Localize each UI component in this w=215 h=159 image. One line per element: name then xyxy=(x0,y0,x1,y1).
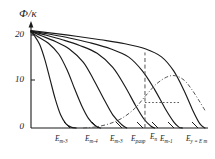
data-curves xyxy=(31,31,205,128)
x-tick-label-0: Em-3 xyxy=(55,135,68,143)
y-tick-label-0: 0 xyxy=(8,122,24,131)
x-tick-label-4: En xyxy=(150,133,157,141)
curve-5 xyxy=(31,31,182,128)
annotation-overlays xyxy=(83,52,205,128)
x-tick-base-6: E xyxy=(186,134,191,143)
x-tick-base-2: E xyxy=(110,134,115,143)
x-tick-label-3: Eразр xyxy=(131,135,145,143)
y-tick-label-20: 20 xyxy=(8,30,24,39)
x-tick-sub-4: n xyxy=(155,136,158,142)
curve-3 xyxy=(31,31,127,128)
curve-6 xyxy=(31,31,205,128)
figure-container: Ф/к 20 10 0 Em-3 Em-4 Em-3 Eразр En Em-1… xyxy=(0,0,215,159)
x-tick-label-1: Em-4 xyxy=(85,135,98,143)
x-tick-base-5: E xyxy=(160,134,165,143)
x-tick-base-3: E xyxy=(131,134,136,143)
y-axis-arrow xyxy=(29,21,34,28)
x-tick-label-2: Em-3 xyxy=(110,135,123,143)
x-tick-label-5: Em-1 xyxy=(160,135,173,143)
x-tick-base-1: E xyxy=(85,134,90,143)
x-tick-sub-3: разр xyxy=(136,138,146,144)
y-axis-title: Ф/к xyxy=(19,8,37,19)
x-tick-base-0: E xyxy=(55,134,60,143)
x-tick-marks xyxy=(64,122,198,128)
x-tick-sub-0: m-3 xyxy=(60,138,68,144)
x-tick-label-6: Eу = E m xyxy=(186,135,207,143)
x-tick-base-4: E xyxy=(150,132,155,141)
plot-canvas xyxy=(0,0,215,159)
curve-1 xyxy=(31,32,76,128)
x-tick-sub-5: m-1 xyxy=(165,138,173,144)
y-tick-label-10: 10 xyxy=(8,75,24,84)
x-tick-sub-6: у = E m xyxy=(191,138,208,144)
y-tick-marks xyxy=(31,35,35,80)
x-tick-sub-2: m-3 xyxy=(115,138,123,144)
x-tick-sub-1: m-4 xyxy=(90,138,98,144)
